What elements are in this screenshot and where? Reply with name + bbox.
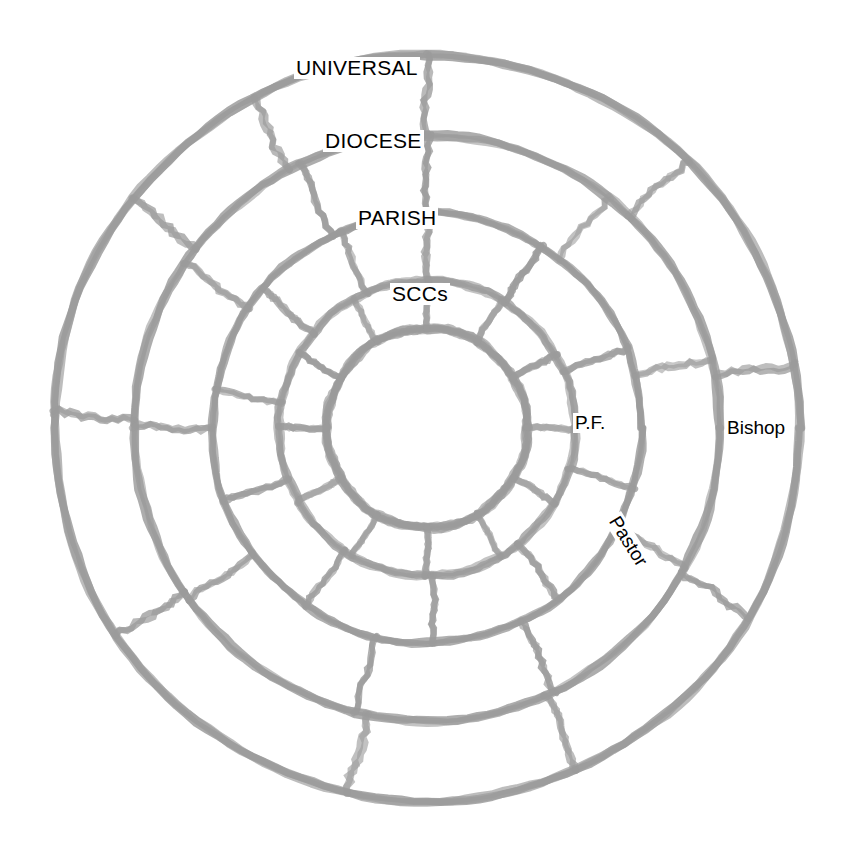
ring-label-parish: PARISH [356,207,438,229]
role-label-bishop: Bishop [725,418,787,438]
ring-label-diocese: DIOCESE [323,130,424,152]
ring-label-sccs: SCCs [390,283,450,305]
diagram-canvas: UNIVERSAL DIOCESE PARISH SCCs P.F. Bisho… [0,0,855,862]
role-label-pf: P.F. [573,413,607,433]
ring-label-universal: UNIVERSAL [294,57,420,79]
